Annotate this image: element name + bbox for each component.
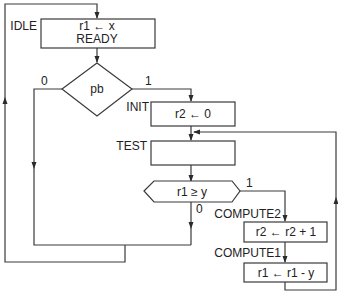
state-label-compute1: COMPUTE1: [214, 246, 281, 260]
arrowhead-down-icon: [283, 215, 288, 222]
arrowhead-up-icon: [3, 97, 8, 104]
init-action: r2 ← 0: [175, 107, 211, 121]
compute1-action: r1 ← r1 - y: [258, 266, 315, 280]
idle-action-assign: r1 ← x: [79, 19, 114, 33]
state-label-compute2: COMPUTE2: [214, 207, 281, 221]
cond-zero-label: 0: [196, 202, 203, 216]
state-box-test: [151, 141, 235, 165]
cond-one-label: 1: [246, 176, 253, 190]
arrowhead-down-icon: [189, 134, 194, 141]
arrowhead-down-icon: [95, 56, 100, 63]
arrowhead-down-icon: [95, 12, 100, 19]
state-label-idle: IDLE: [10, 19, 37, 33]
decision-condition-r1-ge-y: r1 ≥ y: [177, 185, 207, 199]
asm-chart: IDLE r1 ← x READY pb 0 1 INIT r2 ← 0 TES…: [0, 0, 338, 294]
pb-one-label: 1: [145, 74, 152, 88]
arrowhead-down-icon: [189, 222, 194, 229]
pb-zero-label: 0: [41, 74, 48, 88]
arrowhead-down-icon: [189, 95, 194, 102]
arrowhead-left-icon: [193, 130, 200, 135]
compute2-action: r2 ← r2 + 1: [256, 225, 317, 239]
idle-action-ready: READY: [76, 32, 117, 46]
state-label-init: INIT: [126, 100, 149, 114]
arrowhead-up-icon: [334, 197, 338, 204]
state-label-test: TEST: [116, 139, 147, 153]
decision-condition-pb: pb: [90, 82, 104, 96]
arrowhead-down-icon: [283, 256, 288, 263]
arrowhead-down-icon: [32, 162, 37, 169]
